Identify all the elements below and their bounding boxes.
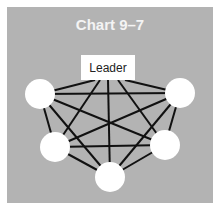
node-bottom-right [150,130,180,160]
node-top-left [25,79,55,109]
network-diagram [0,0,220,208]
node-bottom-left [40,132,70,162]
leader-label: Leader [89,61,126,75]
node-top-right [165,78,195,108]
leader-node: Leader [81,55,135,80]
node-bottom-center [95,162,125,192]
